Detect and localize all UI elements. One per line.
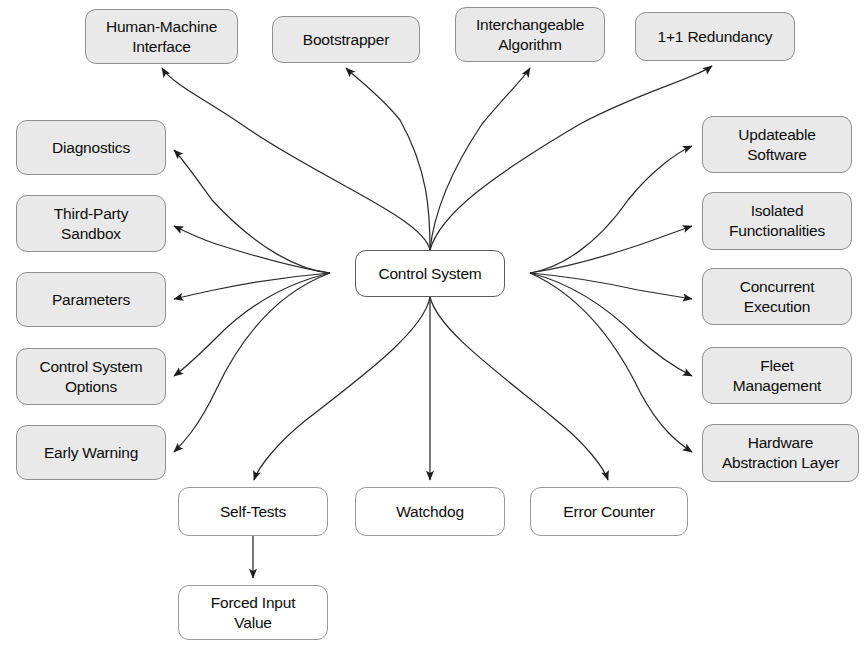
- node-label-hardware-abstraction-layer: Hardware Abstraction Layer: [722, 433, 839, 473]
- node-label-human-machine-interface: Human-Machine Interface: [106, 17, 217, 57]
- node-label-isolated-functionalities: Isolated Functionalities: [729, 201, 825, 241]
- node-isolated-functionalities[interactable]: Isolated Functionalities: [702, 192, 852, 250]
- node-label-bootstrapper: Bootstrapper: [303, 30, 389, 50]
- node-label-one-plus-one-redundancy: 1+1 Redundancy: [658, 27, 773, 47]
- edge-control-system-to-parameters: [174, 273, 330, 299]
- node-interchangeable-algorithm[interactable]: Interchangeable Algorithm: [455, 7, 605, 62]
- node-label-self-tests: Self-Tests: [220, 502, 286, 522]
- node-label-updateable-software: Updateable Software: [738, 125, 815, 165]
- node-fleet-management[interactable]: Fleet Management: [702, 347, 852, 404]
- node-self-tests[interactable]: Self-Tests: [178, 487, 328, 536]
- edge-control-system-to-early-warning: [174, 273, 330, 452]
- edge-layer: [0, 0, 867, 654]
- edge-control-system-to-error-counter: [430, 297, 608, 480]
- edge-control-system-to-isolated-functionalities: [530, 226, 692, 273]
- edge-control-system-to-control-system-options: [174, 273, 330, 376]
- node-label-fleet-management: Fleet Management: [733, 356, 821, 396]
- edge-control-system-to-fleet-management: [530, 273, 692, 376]
- node-forced-input-value[interactable]: Forced Input Value: [178, 585, 328, 640]
- edge-control-system-to-bootstrapper: [346, 68, 430, 250]
- node-bootstrapper[interactable]: Bootstrapper: [272, 16, 420, 63]
- node-control-system[interactable]: Control System: [355, 250, 505, 297]
- diagram-canvas: Control SystemHuman-Machine InterfaceBoo…: [0, 0, 867, 654]
- edge-control-system-to-updateable-software: [530, 146, 692, 273]
- edge-control-system-to-human-machine-interface: [162, 68, 430, 250]
- node-one-plus-one-redundancy[interactable]: 1+1 Redundancy: [635, 12, 795, 61]
- node-label-third-party-sandbox: Third-Party Sandbox: [54, 204, 128, 244]
- edge-control-system-to-one-plus-one-redundancy: [430, 66, 712, 250]
- node-label-diagnostics: Diagnostics: [52, 138, 130, 158]
- edge-control-system-to-self-tests: [254, 297, 430, 480]
- node-third-party-sandbox[interactable]: Third-Party Sandbox: [16, 195, 166, 252]
- edge-control-system-to-concurrent-execution: [530, 273, 692, 299]
- node-label-watchdog: Watchdog: [396, 502, 464, 522]
- node-control-system-options[interactable]: Control System Options: [16, 348, 166, 405]
- node-label-concurrent-execution: Concurrent Execution: [740, 277, 815, 317]
- node-label-parameters: Parameters: [52, 290, 130, 310]
- node-early-warning[interactable]: Early Warning: [16, 425, 166, 480]
- node-human-machine-interface[interactable]: Human-Machine Interface: [85, 9, 238, 64]
- edge-control-system-to-interchangeable-algorithm: [430, 68, 530, 250]
- node-label-control-system: Control System: [378, 264, 481, 284]
- node-label-control-system-options: Control System Options: [39, 357, 142, 397]
- node-label-forced-input-value: Forced Input Value: [211, 593, 296, 633]
- node-diagnostics[interactable]: Diagnostics: [16, 120, 166, 175]
- edge-control-system-to-diagnostics: [174, 150, 330, 273]
- node-label-interchangeable-algorithm: Interchangeable Algorithm: [476, 15, 584, 55]
- node-parameters[interactable]: Parameters: [16, 272, 166, 327]
- node-updateable-software[interactable]: Updateable Software: [702, 116, 852, 173]
- edge-control-system-to-third-party-sandbox: [174, 226, 330, 273]
- node-label-early-warning: Early Warning: [44, 443, 138, 463]
- node-error-counter[interactable]: Error Counter: [530, 487, 688, 536]
- node-label-error-counter: Error Counter: [563, 502, 654, 522]
- node-hardware-abstraction-layer[interactable]: Hardware Abstraction Layer: [702, 424, 859, 482]
- node-watchdog[interactable]: Watchdog: [355, 487, 505, 536]
- node-concurrent-execution[interactable]: Concurrent Execution: [702, 268, 852, 325]
- edge-control-system-to-hardware-abstraction-layer: [530, 273, 692, 452]
